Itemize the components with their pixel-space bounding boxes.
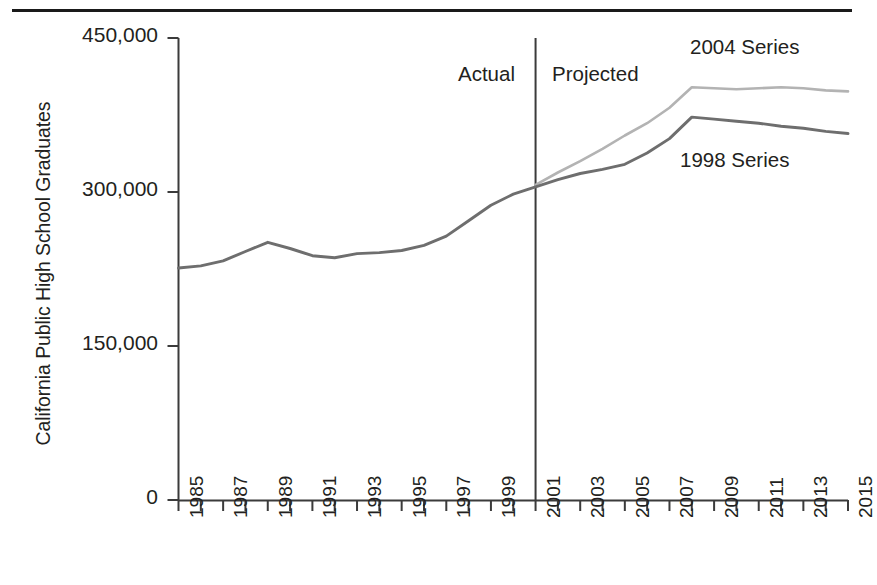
x-tick-label-2005: 2005 [632,476,654,518]
x-tick-label-1999: 1999 [498,476,520,518]
x-tick-label-1995: 1995 [409,476,431,518]
series-line-2004 [536,87,848,185]
axes-group [168,38,849,511]
x-tick-label-2003: 2003 [587,476,609,518]
x-tick-label-1985: 1985 [186,476,208,518]
x-tick-label-2007: 2007 [676,476,698,518]
x-tick-label-2013: 2013 [810,476,832,518]
x-tick-label-1989: 1989 [275,476,297,518]
x-tick-label-1987: 1987 [230,476,252,518]
y-tick-marks [168,38,179,500]
x-tick-label-1997: 1997 [453,476,475,518]
x-tick-label-2015: 2015 [855,476,877,518]
x-tick-label-1991: 1991 [319,476,341,518]
x-tick-label-2009: 2009 [721,476,743,518]
series-line-1998 [179,117,849,268]
x-tick-label-2011: 2011 [766,477,788,518]
x-tick-label-1993: 1993 [364,476,386,518]
x-tick-label-2001: 2001 [543,476,565,518]
